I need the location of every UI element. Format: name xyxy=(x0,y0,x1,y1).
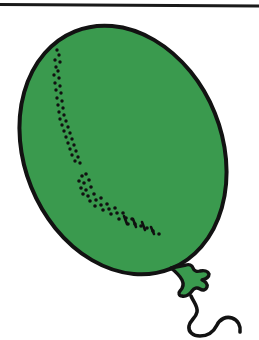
stipple-dot xyxy=(68,147,71,150)
stipple-dot xyxy=(72,143,75,146)
stipple-dot xyxy=(54,65,57,68)
stipple-dot xyxy=(81,192,85,196)
stipple-dot xyxy=(74,149,77,152)
stipple-dot xyxy=(57,53,60,56)
stipple-dot xyxy=(89,185,93,189)
stipple-dot xyxy=(66,125,69,128)
stipple-dot xyxy=(93,204,97,208)
stipple-dot xyxy=(64,135,67,138)
stipple-dot xyxy=(115,211,119,215)
stipple-dot xyxy=(57,110,60,113)
stipple-dot xyxy=(54,88,57,91)
stipple-dot xyxy=(113,206,117,210)
stipple-dot xyxy=(109,212,113,216)
stipple-dot xyxy=(107,207,111,211)
stipple-dot xyxy=(58,117,61,120)
stipple-dot xyxy=(64,119,67,122)
stipple-dot xyxy=(66,141,69,144)
stipple-dot xyxy=(101,208,105,212)
stipple-dot xyxy=(59,91,62,94)
stipple-dot xyxy=(94,198,98,202)
stipple-dot xyxy=(84,172,88,176)
stipple-dot xyxy=(84,188,88,192)
stipple-dot xyxy=(73,159,76,162)
stipple-dot xyxy=(61,106,64,109)
stipple-dot xyxy=(88,199,92,203)
stipple-dot xyxy=(58,84,61,87)
stipple-dot xyxy=(105,202,109,206)
stipple-dot xyxy=(157,232,161,236)
stipple-dot xyxy=(77,179,81,183)
stipple-dot xyxy=(52,73,55,76)
stipple-dot xyxy=(60,99,63,102)
stipple-dot xyxy=(86,194,90,198)
stipple-dot xyxy=(53,58,56,61)
stipple-dot xyxy=(53,81,56,84)
stipple-dot xyxy=(68,131,71,134)
illustration-canvas: Balloon xyxy=(0,0,259,340)
stipple-dot xyxy=(55,96,58,99)
balloon-illustration xyxy=(0,0,259,340)
stipple-dot xyxy=(121,211,125,215)
stipple-dot xyxy=(87,178,91,182)
stipple-dot xyxy=(62,129,65,132)
stipple-dot xyxy=(82,181,86,185)
stipple-dot xyxy=(56,69,59,72)
stipple-dot xyxy=(58,60,61,63)
stipple-dot xyxy=(92,192,96,196)
stipple-dot xyxy=(60,123,63,126)
stipple-dot xyxy=(80,174,84,178)
stipple-dot xyxy=(56,103,59,106)
stipple-dot xyxy=(62,113,65,116)
stipple-dot xyxy=(79,186,83,190)
stipple-dot xyxy=(99,203,103,207)
horizontal-rule xyxy=(0,5,259,7)
stipple-dot xyxy=(57,76,60,79)
stipple-dot xyxy=(70,137,73,140)
stipple-dot xyxy=(99,196,103,200)
stipple-dot xyxy=(117,217,121,221)
stipple-dot xyxy=(76,155,79,158)
stipple-dot xyxy=(70,153,73,156)
stipple-dot xyxy=(78,161,81,164)
stipple-dot xyxy=(55,48,58,51)
